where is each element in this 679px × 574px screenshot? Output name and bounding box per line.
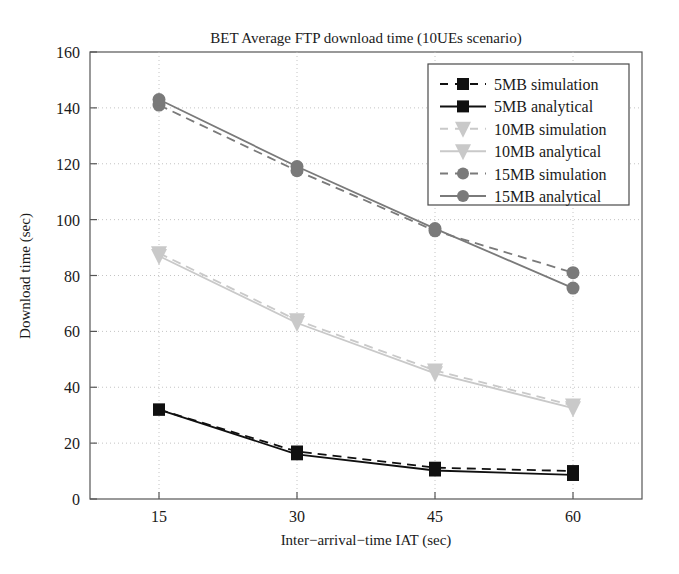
- y-tick-label: 80: [64, 268, 80, 285]
- data-point-marker: [567, 469, 579, 481]
- data-point-marker: [457, 190, 469, 202]
- legend-label: 15MB analytical: [494, 188, 602, 206]
- x-tick-label: 60: [565, 508, 581, 525]
- figure-canvas: 02040608010012014016015304560 BET Averag…: [0, 0, 679, 574]
- x-tick-label: 15: [151, 508, 167, 525]
- data-point-marker: [457, 168, 469, 180]
- data-point-marker: [291, 160, 304, 173]
- legend-label: 5MB analytical: [494, 98, 594, 116]
- data-point-marker: [429, 222, 442, 235]
- x-tick-label: 30: [289, 508, 305, 525]
- data-point-marker: [567, 282, 580, 295]
- legend-label: 10MB analytical: [494, 143, 602, 161]
- y-tick-label: 60: [64, 323, 80, 340]
- data-point-marker: [567, 266, 580, 279]
- y-tick-label: 0: [72, 491, 80, 508]
- y-tick-label: 140: [56, 100, 80, 117]
- y-tick-label: 120: [56, 156, 80, 173]
- legend-label: 15MB simulation: [494, 166, 606, 183]
- x-tick-label: 45: [427, 508, 443, 525]
- chart-svg: 02040608010012014016015304560 BET Averag…: [0, 0, 679, 574]
- y-axis-label: Download time (sec): [17, 213, 34, 339]
- y-tick-label: 20: [64, 435, 80, 452]
- y-tick-label: 100: [56, 212, 80, 229]
- data-point-marker: [291, 448, 303, 460]
- data-point-marker: [457, 78, 469, 90]
- y-tick-label: 160: [56, 44, 80, 61]
- data-point-marker: [429, 465, 441, 477]
- legend[interactable]: 5MB simulation5MB analytical10MB simulat…: [428, 64, 629, 206]
- data-point-marker: [457, 100, 469, 112]
- legend-label: 5MB simulation: [494, 76, 598, 93]
- x-axis-label: Inter−arrival−time IAT (sec): [281, 532, 452, 549]
- data-point-marker: [153, 93, 166, 106]
- chart-title: BET Average FTP download time (10UEs sce…: [210, 30, 521, 47]
- y-tick-label: 40: [64, 379, 80, 396]
- data-point-marker: [153, 404, 165, 416]
- legend-label: 10MB simulation: [494, 121, 606, 138]
